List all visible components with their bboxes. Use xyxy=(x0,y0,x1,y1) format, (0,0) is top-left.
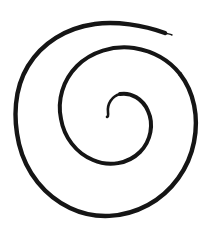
spiral-figure xyxy=(0,0,211,231)
drawing-canvas: Hand-drawn black spiral xyxy=(0,0,211,231)
canvas-background xyxy=(0,0,211,231)
